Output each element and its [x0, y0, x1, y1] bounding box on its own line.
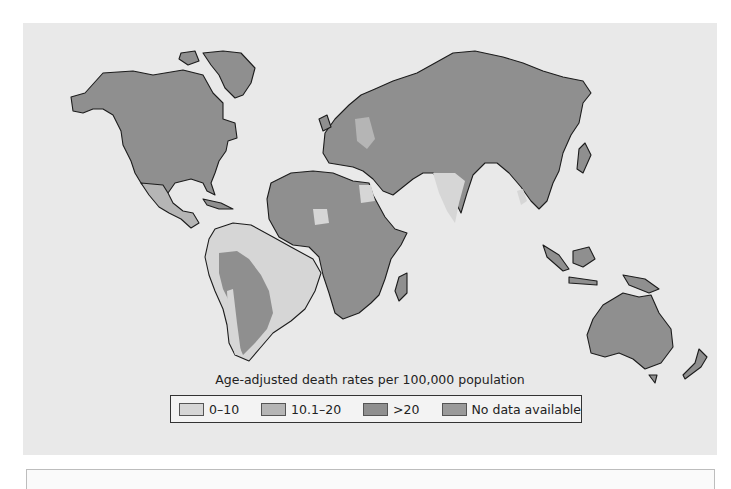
new-guinea — [623, 275, 659, 293]
legend-item-nodata: No data available — [442, 402, 582, 417]
map-panel: Age-adjusted death rates per 100,000 pop… — [23, 23, 717, 455]
legend-label: 0–10 — [209, 402, 239, 417]
north-america — [71, 70, 237, 198]
swatch-icon — [179, 403, 204, 416]
india-low — [433, 173, 465, 223]
legend-title: Age-adjusted death rates per 100,000 pop… — [23, 372, 717, 387]
legend-item-mid: 10.1–20 — [261, 402, 341, 417]
sumatra — [543, 245, 569, 271]
greenland-islet — [179, 51, 199, 65]
japan — [577, 143, 591, 173]
legend-label: No data available — [472, 402, 582, 417]
borneo — [573, 247, 595, 267]
world-map — [23, 23, 717, 455]
central-africa-low — [313, 209, 329, 225]
map-legend: 0–10 10.1–20 >20 No data available — [170, 395, 582, 423]
australia — [587, 293, 673, 369]
swatch-icon — [363, 403, 388, 416]
madagascar — [395, 273, 407, 301]
java — [569, 277, 597, 285]
legend-item-high: >20 — [363, 402, 419, 417]
next-figure-panel — [26, 469, 715, 489]
legend-label: 10.1–20 — [291, 402, 341, 417]
egypt-low — [359, 185, 375, 203]
legend-item-low: 0–10 — [179, 402, 239, 417]
caribbean — [203, 199, 233, 209]
swatch-icon — [261, 403, 286, 416]
swatch-icon — [442, 403, 467, 416]
legend-label: >20 — [393, 402, 419, 417]
